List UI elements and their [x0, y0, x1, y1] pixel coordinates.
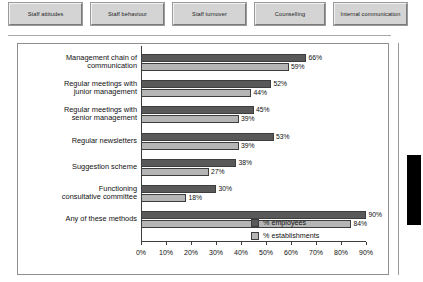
bar-employees	[141, 54, 306, 62]
category-label-line: Regular newsletters	[29, 137, 137, 146]
category-label-line: consultative committee	[29, 193, 137, 202]
right-edge-marker	[407, 155, 421, 225]
legend-item-establishments: % establishments	[251, 230, 351, 241]
x-axis-tick-label: 90%	[359, 249, 373, 256]
x-axis-tick-label: 20%	[184, 249, 198, 256]
x-axis-tick	[241, 242, 242, 245]
bar-establishments	[141, 142, 239, 150]
category-label-line: communication	[29, 62, 137, 71]
bar-value-establishments: 39%	[241, 115, 255, 123]
category-label: Regular newsletters	[29, 137, 137, 146]
x-axis-tick	[141, 242, 142, 245]
category-label-line: junior management	[29, 88, 137, 97]
bar-establishments	[141, 168, 209, 176]
category-label: Suggestion scheme	[29, 163, 137, 172]
bar-value-employees: 52%	[274, 80, 288, 88]
bar-value-establishments: 27%	[211, 168, 225, 176]
bar-value-establishments: 59%	[291, 63, 305, 71]
bar-value-employees: 38%	[239, 159, 253, 167]
category-label: Regular meetings withjunior management	[29, 80, 137, 97]
chart-category-row: Functioningconsultative committee30%18%	[141, 185, 366, 203]
bar-establishments	[141, 89, 251, 97]
chart-category-row: Regular meetings withsenior management45…	[141, 106, 366, 124]
x-axis-tick-label: 0%	[136, 249, 146, 256]
tab-internal-communication[interactable]: Internal communication	[334, 3, 407, 25]
bar-value-establishments: 18%	[189, 194, 203, 202]
x-axis-tick-label: 30%	[209, 249, 223, 256]
bar-employees	[141, 159, 236, 167]
category-label-line: Suggestion scheme	[29, 163, 137, 172]
x-axis-tick	[216, 242, 217, 245]
legend-label-establishments: % establishments	[263, 231, 319, 240]
header-divider	[8, 35, 391, 36]
tab-counselling[interactable]: Counselling	[255, 3, 325, 25]
tab-strip: Staff attitudesStaff behaviourStaff turn…	[0, 0, 423, 30]
x-axis-tick-label: 40%	[234, 249, 248, 256]
category-label-line: Any of these methods	[29, 215, 137, 224]
x-axis-tick-label: 80%	[334, 249, 348, 256]
bar-value-establishments: 44%	[254, 89, 268, 97]
category-label: Management chain ofcommunication	[29, 54, 137, 71]
legend-label-employees: % employees	[263, 218, 306, 227]
tab-staff-turnover[interactable]: Staff turnover	[173, 3, 246, 25]
bar-value-establishments: 84%	[354, 220, 368, 228]
bar-value-employees: 66%	[309, 54, 323, 62]
bar-value-employees: 90%	[369, 211, 383, 219]
category-label: Any of these methods	[29, 215, 137, 224]
x-axis-tick	[166, 242, 167, 245]
x-axis-tick-label: 70%	[309, 249, 323, 256]
legend-swatch-establishments-icon	[251, 232, 259, 240]
category-label: Functioningconsultative committee	[29, 185, 137, 202]
category-label-line: senior management	[29, 114, 137, 123]
tab-staff-attitudes[interactable]: Staff attitudes	[9, 3, 82, 25]
chart-frame: Management chain ofcommunication66%59%Re…	[17, 43, 389, 275]
x-axis-tick	[191, 242, 192, 245]
bar-value-employees: 45%	[256, 106, 270, 114]
chart-category-row: Management chain ofcommunication66%59%	[141, 54, 366, 72]
bar-value-employees: 53%	[276, 133, 290, 141]
x-axis-tick-label: 10%	[159, 249, 173, 256]
chart-category-row: Regular meetings withjunior management52…	[141, 80, 366, 98]
bar-value-establishments: 39%	[241, 142, 255, 150]
bar-value-employees: 30%	[219, 185, 233, 193]
chart-category-row: Suggestion scheme38%27%	[141, 159, 366, 177]
bar-employees	[141, 185, 216, 193]
chart-legend: % employees % establishments	[251, 217, 351, 243]
bar-employees	[141, 80, 271, 88]
bar-employees	[141, 106, 254, 114]
legend-item-employees: % employees	[251, 217, 351, 228]
x-axis-tick	[366, 242, 367, 245]
chart-category-row: Regular newsletters53%39%	[141, 133, 366, 151]
x-axis-tick-label: 60%	[284, 249, 298, 256]
plot-area: Management chain ofcommunication66%59%Re…	[141, 52, 366, 242]
legend-swatch-employees-icon	[251, 219, 259, 227]
bar-establishments	[141, 63, 289, 71]
tab-staff-behaviour[interactable]: Staff behaviour	[91, 3, 164, 25]
bar-establishments	[141, 115, 239, 123]
bar-employees	[141, 133, 274, 141]
bar-establishments	[141, 194, 186, 202]
right-margin-rule	[398, 43, 399, 275]
category-label: Regular meetings withsenior management	[29, 106, 137, 123]
x-axis-tick-label: 50%	[259, 249, 273, 256]
